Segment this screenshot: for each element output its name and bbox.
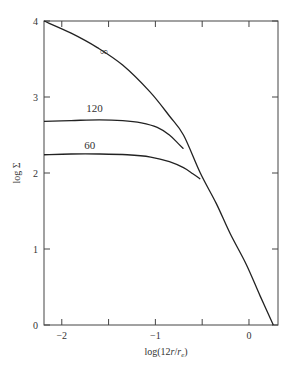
x-tick-label: 0 bbox=[246, 330, 251, 341]
series-line-120 bbox=[44, 120, 183, 149]
series-line-60 bbox=[44, 154, 200, 179]
series-label: 120 bbox=[86, 102, 103, 114]
x-tick-label: −2 bbox=[56, 330, 67, 341]
y-tick-label: 3 bbox=[33, 92, 38, 103]
series-label: ∞ bbox=[100, 45, 108, 57]
series-line-infinity bbox=[44, 21, 273, 325]
y-tick-label: 2 bbox=[33, 168, 38, 179]
x-tick-label: −1 bbox=[150, 330, 161, 341]
y-tick-label: 0 bbox=[33, 320, 38, 331]
plot-frame bbox=[44, 21, 278, 325]
y-tick-label: 4 bbox=[33, 16, 38, 27]
x-axis-label: log(12r/re) bbox=[144, 346, 187, 359]
y-axis-label: log Σ bbox=[11, 162, 22, 183]
y-tick-label: 1 bbox=[33, 244, 38, 255]
series-label: 60 bbox=[84, 139, 96, 151]
chart: −2−1001234 ∞12060 log Σ log(12r/re) bbox=[0, 0, 293, 372]
